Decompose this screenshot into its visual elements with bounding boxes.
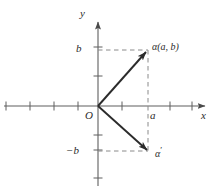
alpha-conjugate-vector — [98, 106, 147, 150]
alpha-coordinates: (a, b) — [157, 41, 179, 52]
alpha-vector — [98, 52, 146, 106]
x-axis-label: x — [201, 110, 206, 121]
y-tick-label-b: b — [76, 43, 82, 54]
figure-canvas — [0, 0, 216, 193]
prime-mark: ′ — [160, 145, 162, 155]
point-label-alpha: α(a, b) — [152, 42, 179, 52]
complex-plane-figure: y x O b −b a α(a, b) α′ — [0, 0, 216, 193]
vectors — [98, 52, 147, 150]
origin-label: O — [85, 110, 93, 121]
y-axis-label: y — [80, 8, 85, 19]
x-tick-label-a: a — [150, 110, 156, 121]
y-axis — [94, 22, 103, 186]
point-label-alpha-conjugate: α′ — [155, 146, 162, 159]
y-tick-label-neg-b: −b — [66, 145, 79, 156]
dashed-guides — [98, 50, 148, 151]
x-axis — [4, 102, 205, 111]
